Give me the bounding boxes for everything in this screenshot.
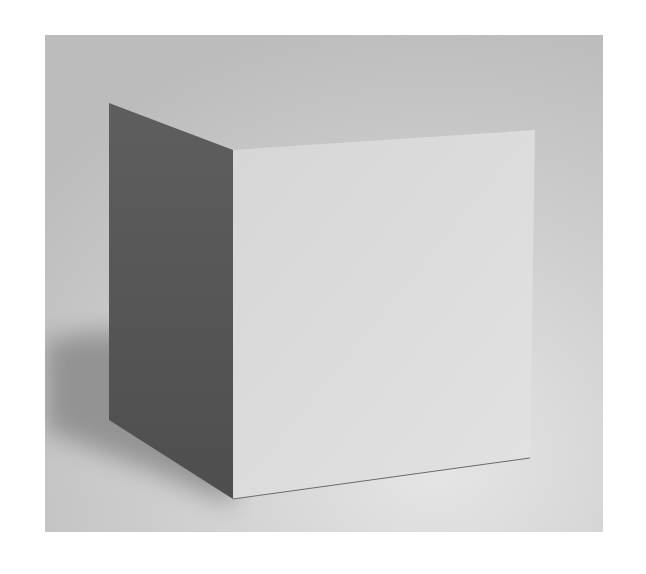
cube-front-face (233, 130, 535, 499)
cube-illustration (45, 35, 603, 532)
cube-photograph (45, 35, 603, 532)
